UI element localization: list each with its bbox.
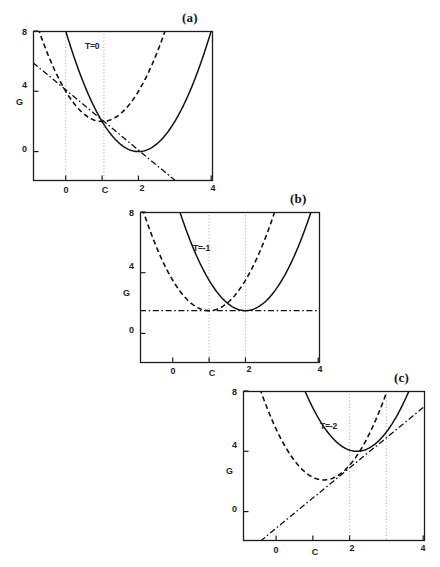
panel-a-ytick-8: 8: [22, 27, 27, 37]
panel-b-ytick-4: 4: [129, 261, 134, 271]
figure-root: (a) T=0 G 8 4 0 0 C 2 4 (b) T=-1 G 8 4 0…: [0, 0, 440, 567]
panel-c-y-axis-label: G: [226, 466, 233, 476]
panel-b-plot: [140, 212, 320, 363]
panel-a-xtick-C: C: [98, 185, 112, 195]
panel-a-plot: [33, 31, 213, 181]
panel-c-temperature-label: T=-2: [320, 421, 337, 431]
panel-a-ytick-4: 4: [22, 80, 27, 90]
panel-b-temperature-label: T=-1: [193, 243, 210, 253]
panel-c: [243, 391, 425, 541]
panel-a: [33, 31, 213, 181]
panel-c-label: (c): [394, 370, 409, 386]
panel-b-xtick-0: 0: [166, 366, 180, 376]
plot-frame: [141, 213, 320, 363]
panel-b-xtick-2: 2: [242, 364, 256, 374]
panel-a-xtick-2: 2: [135, 183, 149, 193]
panel-b-y-axis-label: G: [123, 288, 130, 298]
panel-c-xtick-4: 4: [416, 543, 430, 553]
panel-b-xtick-4: 4: [313, 364, 327, 374]
panel-c-ytick-8: 8: [232, 387, 237, 397]
panel-b-label: (b): [290, 191, 307, 207]
panel-b: [140, 212, 320, 363]
panel-c-ytick-0: 0: [232, 504, 237, 514]
panel-a-temperature-label: T=0: [85, 41, 99, 51]
panel-b-ytick-0: 0: [129, 325, 134, 335]
dashed-free-energy-curve: [33, 0, 191, 121]
panel-a-xtick-0: 0: [59, 185, 73, 195]
panel-c-xtick-0: 0: [269, 545, 283, 555]
panel-c-xtick-C: C: [308, 547, 322, 557]
panel-a-ytick-0: 0: [22, 144, 27, 154]
panel-a-label: (a): [182, 10, 198, 26]
plot-frame: [34, 32, 213, 181]
panel-c-ytick-4: 4: [232, 440, 237, 450]
panel-c-plot: [243, 391, 425, 541]
panel-a-xtick-4: 4: [206, 183, 220, 193]
panel-a-y-axis-label: G: [16, 97, 23, 107]
common-tangent-line: [260, 406, 425, 541]
panel-c-xtick-2: 2: [345, 543, 359, 553]
panel-b-ytick-8: 8: [129, 208, 134, 218]
panel-b-xtick-C: C: [205, 368, 219, 378]
